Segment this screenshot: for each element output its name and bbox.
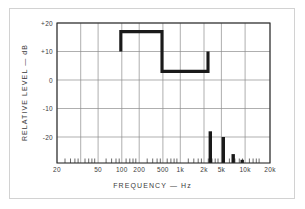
y-tick-label-10n: -10: [31, 105, 53, 112]
y-tick-label-20n: -20: [31, 134, 53, 141]
x-axis-title: FREQUENCY — Hz: [0, 182, 305, 189]
x-tick-label-5k: 5k: [208, 166, 234, 173]
x-tick-label-20k: 20k: [257, 166, 283, 173]
y-tick-label-10p: +10: [31, 48, 53, 55]
spike-bar: [209, 131, 212, 163]
x-tick-label-10k: 10k: [232, 166, 258, 173]
chart-figure: +20 +10 0 -10 -20 20 50 100 200 500 1k 2…: [0, 0, 305, 209]
x-tick-label-20: 20: [44, 166, 70, 173]
y-tick-label-20p: +20: [31, 20, 53, 27]
y-axis-title: RELATIVE LEVEL — dB: [21, 23, 28, 163]
spike-bar: [222, 137, 225, 163]
spike-bar: [232, 154, 235, 163]
x-tick-label-200: 200: [126, 166, 152, 173]
x-tick-label-50: 50: [85, 166, 111, 173]
y-tick-label-0: 0: [31, 77, 53, 84]
x-tick-label-1k: 1k: [167, 166, 193, 173]
